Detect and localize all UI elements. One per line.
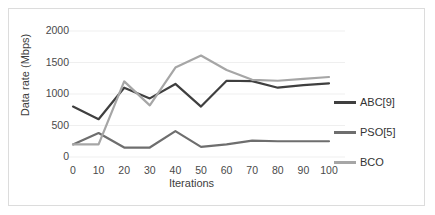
legend-swatch-icon <box>334 101 356 104</box>
legend-item-abc9[interactable]: ABC[9] <box>334 87 426 117</box>
legend-swatch-icon <box>334 161 356 164</box>
legend-item-label: PSO[5] <box>360 126 395 138</box>
legend-item-pso5[interactable]: PSO[5] <box>334 117 426 147</box>
chart-legend: ABC[9]PSO[5]BCO <box>334 87 426 177</box>
chart-container: 0500100015002000 0102030405060708090100 … <box>8 8 425 206</box>
legend-item-bco[interactable]: BCO <box>334 147 426 177</box>
legend-swatch-icon <box>334 131 356 134</box>
legend-item-label: ABC[9] <box>360 96 395 108</box>
y-axis-title: Data rate (Mbps) <box>19 15 31 135</box>
x-axis-title: Iterations <box>64 177 319 189</box>
legend-item-label: BCO <box>360 156 384 168</box>
plot-area: 0500100015002000 0102030405060708090100 … <box>9 9 426 207</box>
